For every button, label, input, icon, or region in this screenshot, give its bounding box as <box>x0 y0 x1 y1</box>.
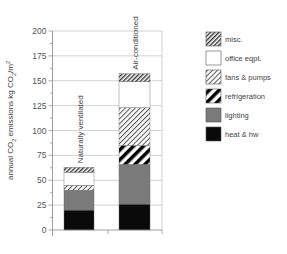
legend-label: fans & pumps <box>225 73 271 82</box>
legend-item: refrigeration <box>206 89 265 103</box>
legend-swatch <box>206 51 221 65</box>
bar-naturally-ventilated: Naturally ventilated <box>64 95 94 230</box>
bar-segment-office-eqpt <box>64 172 94 185</box>
bar-segment-heat-hw <box>64 210 94 230</box>
legend-label: misc. <box>225 35 243 44</box>
bar-segment-lighting <box>119 164 150 204</box>
legend-item: misc. <box>206 32 243 46</box>
bar-segment-lighting <box>64 190 94 210</box>
bar-segment-fans-pumps <box>119 108 150 146</box>
bar-segment-heat-hw <box>119 204 150 230</box>
y-tick-label: 0 <box>42 225 47 235</box>
bar-segment-misc <box>64 167 94 172</box>
legend: misc.office eqpt.fans & pumpsrefrigerati… <box>206 32 271 141</box>
legend-label: office eqpt. <box>225 54 262 63</box>
legend-swatch <box>206 108 221 122</box>
legend-item: fans & pumps <box>206 70 271 84</box>
bar-air-conditioned: Air-conditioned <box>119 16 150 230</box>
legend-swatch <box>206 70 221 84</box>
y-axis: 0255075100125150175200 <box>32 26 52 236</box>
y-axis-title-text: annual CO2 emissions kg CO2/m2 <box>5 61 17 180</box>
bar-segment-misc <box>119 74 150 82</box>
y-tick-label: 125 <box>32 101 46 111</box>
y-tick-label: 75 <box>37 150 47 160</box>
x-axis <box>53 230 163 234</box>
legend-item: office eqpt. <box>206 51 262 65</box>
legend-swatch <box>206 32 221 46</box>
stacked-bar-chart: 0255075100125150175200 Naturally ventila… <box>0 0 287 254</box>
category-label: Naturally ventilated <box>76 95 85 163</box>
y-tick-label: 150 <box>32 76 46 86</box>
bar-segment-office-eqpt <box>119 82 150 108</box>
y-tick-label: 175 <box>32 51 46 61</box>
legend-swatch <box>206 127 221 141</box>
y-tick-label: 50 <box>37 175 47 185</box>
bar-segment-fans-pumps <box>64 185 94 190</box>
legend-label: refrigeration <box>225 92 265 101</box>
category-label: Air-conditioned <box>131 16 140 69</box>
bars: Naturally ventilatedAir-conditioned <box>64 16 150 230</box>
legend-item: heat & hw <box>206 127 259 141</box>
bar-segment-refrigeration <box>119 145 150 164</box>
y-tick-label: 100 <box>32 126 46 136</box>
legend-label: heat & hw <box>225 130 259 139</box>
legend-swatch <box>206 89 221 103</box>
y-tick-label: 200 <box>32 26 46 36</box>
legend-item: lighting <box>206 108 249 122</box>
y-tick-label: 25 <box>37 200 47 210</box>
legend-label: lighting <box>225 111 249 120</box>
y-axis-title: annual CO2 emissions kg CO2/m2 <box>5 61 17 180</box>
